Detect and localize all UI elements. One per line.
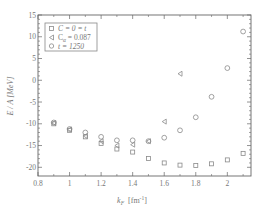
x-axis-label: kF[fm-1] (117, 195, 147, 206)
square-marker (178, 163, 182, 167)
chart: 0.811.21.41.61.82-20-15-10-5051015 C = 0… (0, 0, 266, 212)
square-marker (131, 150, 135, 154)
y-tick-label: -10 (26, 119, 36, 128)
y-tick-label: 5 (32, 54, 36, 63)
square-marker (225, 158, 229, 162)
x-tick-label: 1 (68, 179, 72, 188)
legend-label: t = 1250 (58, 42, 84, 51)
circle-marker (162, 135, 167, 140)
square-marker (194, 164, 198, 168)
circle-marker (178, 128, 183, 133)
square-marker (241, 151, 245, 155)
x-tick-label: 1.4 (128, 179, 138, 188)
series-square (52, 122, 245, 168)
circle-marker (193, 115, 198, 120)
y-tick-label: -5 (30, 98, 36, 107)
square-marker (210, 162, 214, 166)
circle-marker (241, 29, 246, 34)
circle-marker (99, 134, 104, 139)
y-tick-label: -15 (26, 141, 36, 150)
y-tick-label: -20 (26, 163, 36, 172)
square-marker (146, 157, 150, 161)
y-axis-label: E / A [MeV] (6, 76, 15, 116)
y-tick-label: 15 (29, 11, 37, 20)
x-tick-label: 0.8 (33, 179, 43, 188)
circle-marker (225, 66, 230, 71)
x-tick-label: 1.2 (96, 179, 106, 188)
x-tick-label: 2 (225, 179, 229, 188)
triangle-marker (162, 119, 166, 124)
x-tick-label: 1.8 (191, 179, 201, 188)
y-tick-label: 10 (29, 32, 37, 41)
y-tick-label: 0 (32, 76, 36, 85)
legend-label: C = 0 = t (58, 24, 87, 33)
circle-marker (209, 94, 214, 99)
circle-marker (130, 138, 135, 143)
legend: C = 0 = t Cα = 0.087 t = 1250 (45, 23, 97, 51)
triangle-marker (178, 71, 182, 76)
circle-marker (114, 138, 119, 143)
x-tick-label: 1.6 (160, 179, 170, 188)
circle-marker (83, 130, 88, 135)
square-marker (162, 161, 166, 165)
